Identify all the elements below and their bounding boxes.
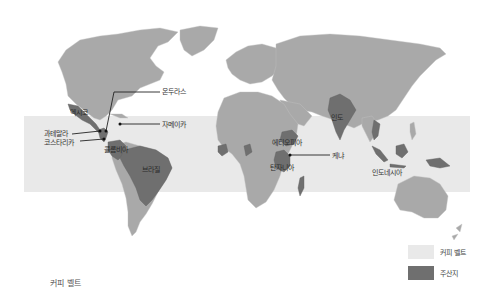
honduras-dot bbox=[105, 130, 108, 133]
legend-label: 커피 벨트 bbox=[440, 247, 466, 257]
label-tanzania: 탄자니아 bbox=[270, 163, 295, 172]
label-costa-rica: 코스타리카 bbox=[44, 138, 75, 147]
jamaica-dot bbox=[119, 123, 122, 126]
label-colombia: 콜롬비아 bbox=[104, 145, 129, 154]
kenya-dot bbox=[289, 154, 292, 157]
greenland bbox=[180, 26, 218, 56]
legend: 커피 벨트 주산지 bbox=[408, 243, 466, 285]
map-caption: 커피 벨트 bbox=[50, 277, 81, 288]
legend-swatch-coffee-belt bbox=[408, 245, 434, 259]
costa-rica-dot bbox=[103, 138, 106, 141]
legend-item-producer: 주산지 bbox=[408, 264, 466, 282]
new-zealand bbox=[452, 224, 462, 240]
label-honduras: 온두라스 bbox=[162, 87, 187, 96]
label-kenya: 케냐 bbox=[332, 151, 345, 160]
label-brazil: 브라질 bbox=[142, 165, 160, 174]
label-india: 인도 bbox=[331, 113, 344, 122]
legend-item-coffee-belt: 커피 벨트 bbox=[408, 243, 466, 261]
label-indonesia: 인도네시아 bbox=[372, 168, 403, 177]
label-ethiopia: 에티오피아 bbox=[272, 138, 303, 147]
legend-label: 주산지 bbox=[440, 268, 458, 278]
label-jamaica: 자메이카 bbox=[162, 120, 187, 129]
guatemala-dot bbox=[99, 130, 102, 133]
label-mexico: 멕시코 bbox=[70, 108, 89, 117]
legend-swatch-producer bbox=[408, 266, 434, 280]
label-guatemala: 과테말라 bbox=[44, 129, 69, 138]
